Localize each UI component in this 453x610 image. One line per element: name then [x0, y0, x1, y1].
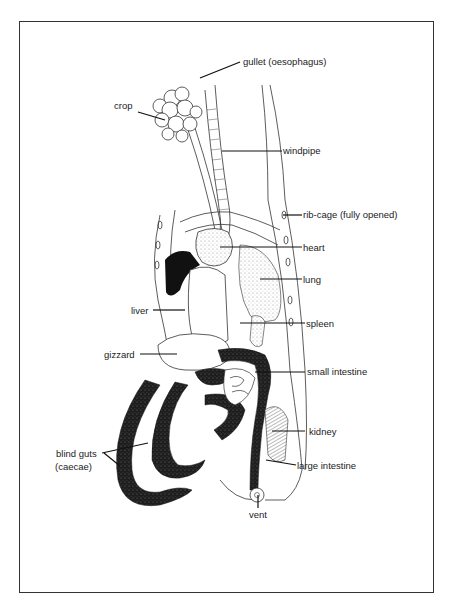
kidney-organ	[265, 407, 288, 462]
label-vent: vent	[249, 509, 267, 520]
label-liver: liver	[131, 305, 148, 316]
label-crop: crop	[114, 100, 132, 111]
label-small-intestine: small intestine	[307, 366, 367, 377]
label-spleen: spleen	[306, 318, 334, 329]
label-large-intestine: large intestine	[297, 460, 356, 471]
spleen-organ	[250, 316, 265, 347]
small-intestine-organ	[224, 369, 255, 405]
label-kidney: kidney	[309, 426, 336, 437]
label-rib-cage: rib-cage (fully opened)	[303, 209, 398, 220]
crop-organ	[153, 87, 202, 142]
vent-opening	[250, 488, 264, 502]
label-lung: lung	[303, 274, 321, 285]
label-blind-guts: blind guts	[56, 448, 97, 459]
label-gullet: gullet (oesophagus)	[243, 56, 326, 67]
label-gizzard: gizzard	[104, 349, 135, 360]
label-heart: heart	[303, 242, 325, 253]
label-caecae: (caecae)	[55, 461, 92, 472]
bird-anatomy-illustration	[0, 0, 453, 610]
label-windpipe: windpipe	[283, 145, 321, 156]
windpipe-rings	[207, 109, 229, 210]
lung-organ	[239, 245, 281, 322]
